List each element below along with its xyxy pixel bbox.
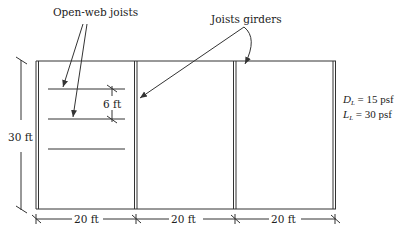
girder-4	[333, 61, 336, 209]
height-label: 30 ft	[8, 132, 33, 143]
joist-leader-2	[73, 24, 87, 117]
open-web-joists-label: Open-web joists	[53, 7, 138, 18]
dead-load: DL = 15 psf	[343, 93, 394, 108]
bay-width-3: 20 ft	[271, 214, 296, 225]
load-values: DL = 15 psf LL = 30 psf	[343, 93, 394, 123]
bay-width-1: 20 ft	[74, 214, 99, 225]
joist-spacing-label: 6 ft	[103, 99, 121, 110]
bay-width-2: 20 ft	[171, 214, 196, 225]
girder-1	[36, 61, 39, 209]
girder-leader-2	[244, 27, 251, 64]
floor-framing-plan	[0, 0, 401, 235]
live-load: LL = 30 psf	[343, 108, 394, 123]
joist-leader-1	[63, 24, 83, 87]
girder-3	[234, 61, 237, 209]
girder-2	[135, 61, 138, 209]
joists-girders-label: Joists girders	[211, 14, 282, 25]
girder-leader-1	[140, 27, 244, 98]
